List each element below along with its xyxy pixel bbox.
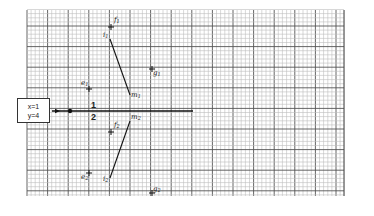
label-m2: m2 xyxy=(131,114,141,121)
label-f2: f2 xyxy=(114,122,120,129)
axis-label-2: 2 xyxy=(91,113,96,122)
label-i1: i1 xyxy=(103,32,108,39)
dot-icon xyxy=(68,109,72,113)
label-i2: i2 xyxy=(103,176,108,183)
state-y: y=4 xyxy=(28,111,39,120)
axis-label-1: 1 xyxy=(91,101,96,110)
label-f1: f1 xyxy=(114,17,120,24)
label-e1: e1 xyxy=(81,80,88,87)
diagram-canvas xyxy=(0,0,374,216)
state-x: x=1 xyxy=(28,102,39,111)
label-g2: g2 xyxy=(153,186,161,193)
label-g1: g1 xyxy=(153,70,161,77)
state-box: x=1 y=4 xyxy=(17,98,50,123)
graph-paper-grid xyxy=(0,0,374,216)
label-e2: e2 xyxy=(81,174,88,181)
label-m1: m1 xyxy=(131,92,141,99)
